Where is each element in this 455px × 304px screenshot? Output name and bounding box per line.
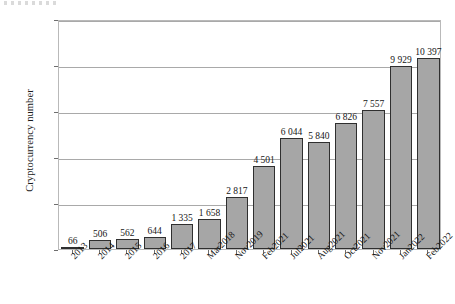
bar-value-label: 6 044 [281, 127, 302, 137]
bar-group[interactable]: 9 929 [387, 21, 414, 249]
bar-value-label: 5 840 [308, 131, 329, 141]
bar-value-label: 1 658 [199, 208, 220, 218]
bar-group[interactable]: 562 [114, 21, 141, 249]
bar-group[interactable]: 6 044 [278, 21, 305, 249]
bar-group[interactable]: 66 [59, 21, 86, 249]
bar-group[interactable]: 7 557 [360, 21, 387, 249]
plot-area: 665065626441 3351 6582 8174 5016 0445 84… [58, 20, 441, 250]
bar[interactable] [362, 110, 384, 249]
bar[interactable] [417, 58, 439, 249]
bar-group[interactable]: 506 [86, 21, 113, 249]
y-tick-mark [54, 204, 58, 205]
scan-artifact [4, 1, 56, 5]
bar-group[interactable]: 1 658 [196, 21, 223, 249]
bar-group[interactable]: 6 826 [333, 21, 360, 249]
y-axis-title: Cryptocurrency number [24, 36, 35, 246]
y-tick-mark [54, 66, 58, 67]
bar-value-label: 562 [120, 228, 134, 238]
bar-group[interactable]: 1 335 [168, 21, 195, 249]
bar-group[interactable]: 644 [141, 21, 168, 249]
bar-group[interactable]: 4 501 [251, 21, 278, 249]
bar-value-label: 7 557 [363, 99, 384, 109]
bar-value-label: 10 397 [415, 47, 441, 57]
bars-layer: 665065626441 3351 6582 8174 5016 0445 84… [59, 21, 440, 249]
bar-value-label: 2 817 [226, 186, 247, 196]
bar-group[interactable]: 2 817 [223, 21, 250, 249]
y-tick-mark [54, 112, 58, 113]
y-tick-mark [54, 250, 58, 251]
bar-group[interactable]: 5 840 [305, 21, 332, 249]
bar-value-label: 1 335 [171, 213, 192, 223]
y-tick-mark [54, 20, 58, 21]
bar-value-label: 9 929 [390, 55, 411, 65]
bar[interactable] [390, 66, 412, 249]
bar-value-label: 66 [68, 236, 78, 246]
bar-value-label: 4 501 [253, 155, 274, 165]
bar-value-label: 644 [148, 226, 162, 236]
bar-value-label: 6 826 [336, 112, 357, 122]
bar[interactable] [308, 142, 330, 249]
bar-value-label: 506 [93, 229, 107, 239]
y-tick-mark [54, 158, 58, 159]
bar-group[interactable]: 10 397 [415, 21, 442, 249]
